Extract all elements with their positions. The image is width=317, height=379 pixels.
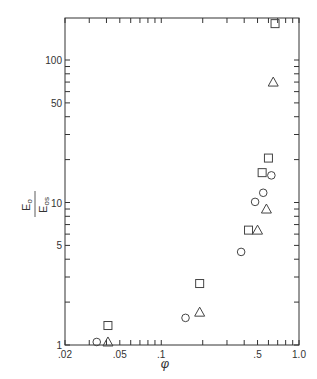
y-tick-label: 1	[56, 340, 62, 351]
triangle-marker	[268, 77, 278, 86]
triangle-marker	[195, 307, 205, 316]
y-axis-label: Eo Eos	[20, 191, 51, 217]
svg-text:Eos: Eos	[37, 197, 51, 213]
square-marker	[245, 226, 253, 234]
square-marker	[258, 169, 266, 177]
y-tick-label: 5	[56, 240, 62, 251]
circle-marker	[268, 172, 276, 180]
x-tick-label: .5	[253, 349, 262, 360]
x-tick-label: 1.0	[292, 349, 306, 360]
square-marker	[196, 280, 204, 288]
triangle-marker	[261, 204, 271, 213]
circle-marker	[259, 189, 267, 197]
square-marker	[104, 322, 112, 330]
y-tick-label: 100	[45, 55, 62, 66]
square-marker	[264, 154, 272, 162]
tick-labels: .02.05.1.51.0151050100	[45, 55, 306, 360]
axis-ticks	[65, 18, 299, 345]
triangle-marker	[253, 225, 263, 234]
y-tick-label: 50	[51, 98, 63, 109]
svg-text:Eo: Eo	[20, 199, 34, 211]
y-tick-label: 10	[51, 198, 63, 209]
x-axis-label: φ	[161, 356, 170, 371]
circle-marker	[237, 248, 245, 256]
scatter-chart: .02.05.1.51.0151050100 φ Eo Eos	[0, 0, 317, 379]
plot-frame	[65, 18, 299, 345]
circle-marker	[182, 314, 190, 322]
circle-marker	[251, 198, 259, 206]
x-tick-label: .05	[113, 349, 127, 360]
data-points	[93, 20, 279, 346]
